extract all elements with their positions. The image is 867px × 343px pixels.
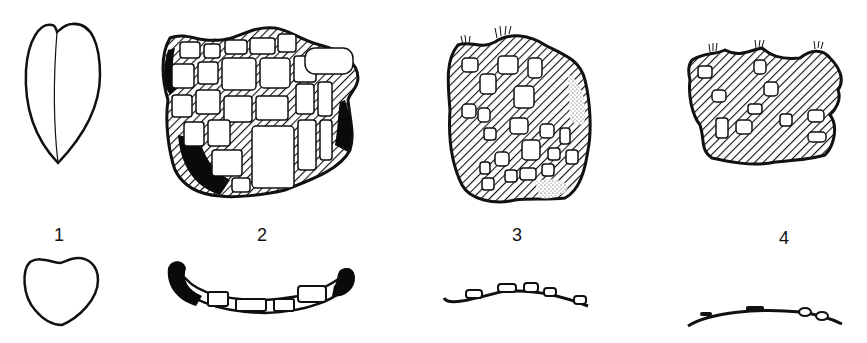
panel-1-top-view <box>26 24 100 163</box>
figure-canvas <box>0 0 867 343</box>
panel-2-top-view <box>163 28 358 197</box>
panel-2-label: 2 <box>247 225 277 246</box>
panel-3-label: 3 <box>502 225 532 246</box>
panel-2-section-view <box>168 261 355 313</box>
panel-1-label: 1 <box>44 225 74 246</box>
panel-4-label: 4 <box>769 228 799 249</box>
panel-4-top-view <box>689 40 842 164</box>
panel-3-top-view <box>448 26 590 202</box>
panel-3-section-view <box>444 283 588 306</box>
panel-1-section-view <box>25 258 98 325</box>
panel-4-section-view <box>688 306 842 326</box>
